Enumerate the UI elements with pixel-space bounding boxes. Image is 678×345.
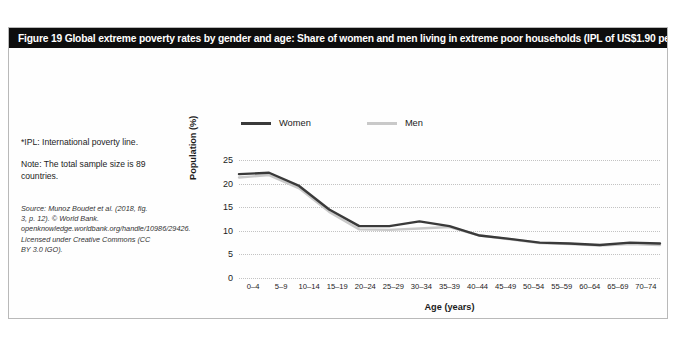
line-men <box>239 175 660 245</box>
chart-legend: Women Men <box>241 118 423 128</box>
y-tick-label: 15 <box>223 202 233 212</box>
x-tick-label: 50–54 <box>520 282 548 291</box>
x-axis-tick-labels: 0–45–910–1415–1920–2425–2930–3435–3940–4… <box>239 282 660 291</box>
legend-swatch-women <box>241 122 271 125</box>
x-tick-label: 15–19 <box>323 282 351 291</box>
x-tick-label: 65–69 <box>604 282 632 291</box>
x-tick-label: 25–29 <box>379 282 407 291</box>
x-tick-label: 60–64 <box>576 282 604 291</box>
x-tick-label: 10–14 <box>295 282 323 291</box>
x-tick-label: 70–74 <box>632 282 660 291</box>
x-tick-label: 40–44 <box>464 282 492 291</box>
y-tick-label: 10 <box>223 226 233 236</box>
plot-canvas: 0510152025 <box>239 160 660 278</box>
y-tick-label: 20 <box>223 179 233 189</box>
chart-plot-region: Population (%) 0510152025 0–45–910–1415–… <box>192 148 662 323</box>
source-citation: Source: Munoz Boudet et al. (2018, fig. … <box>21 204 153 255</box>
legend-item-men[interactable]: Men <box>367 118 423 128</box>
y-tick-label: 25 <box>223 155 233 165</box>
x-tick-label: 0–4 <box>239 282 267 291</box>
ipl-note: *IPL: International poverty line. <box>21 136 153 148</box>
x-tick-label: 20–24 <box>351 282 379 291</box>
x-tick-label: 30–34 <box>407 282 435 291</box>
legend-label-men: Men <box>405 118 423 128</box>
figure-container: Figure 19 Global extreme poverty rates b… <box>8 27 668 319</box>
x-axis-title: Age (years) <box>239 302 660 312</box>
x-tick-label: 35–39 <box>435 282 463 291</box>
x-tick-label: 55–59 <box>548 282 576 291</box>
sample-size-note: Note: The total sample size is 89 countr… <box>21 158 153 182</box>
figure-title: Figure 19 Global extreme poverty rates b… <box>9 33 667 44</box>
y-tick-label: 0 <box>228 273 233 283</box>
y-axis-title: Population (%) <box>188 166 198 180</box>
gridline <box>239 278 660 279</box>
series-lines <box>239 160 660 278</box>
legend-item-women[interactable]: Women <box>241 118 311 128</box>
legend-swatch-men <box>367 122 397 125</box>
x-tick-label: 5–9 <box>267 282 295 291</box>
y-tick-label: 5 <box>228 249 233 259</box>
legend-label-women: Women <box>279 118 311 128</box>
figure-title-bar: Figure 19 Global extreme poverty rates b… <box>9 28 667 48</box>
x-tick-label: 45–49 <box>492 282 520 291</box>
notes-column: *IPL: International poverty line. Note: … <box>21 136 153 255</box>
line-women <box>239 173 660 245</box>
